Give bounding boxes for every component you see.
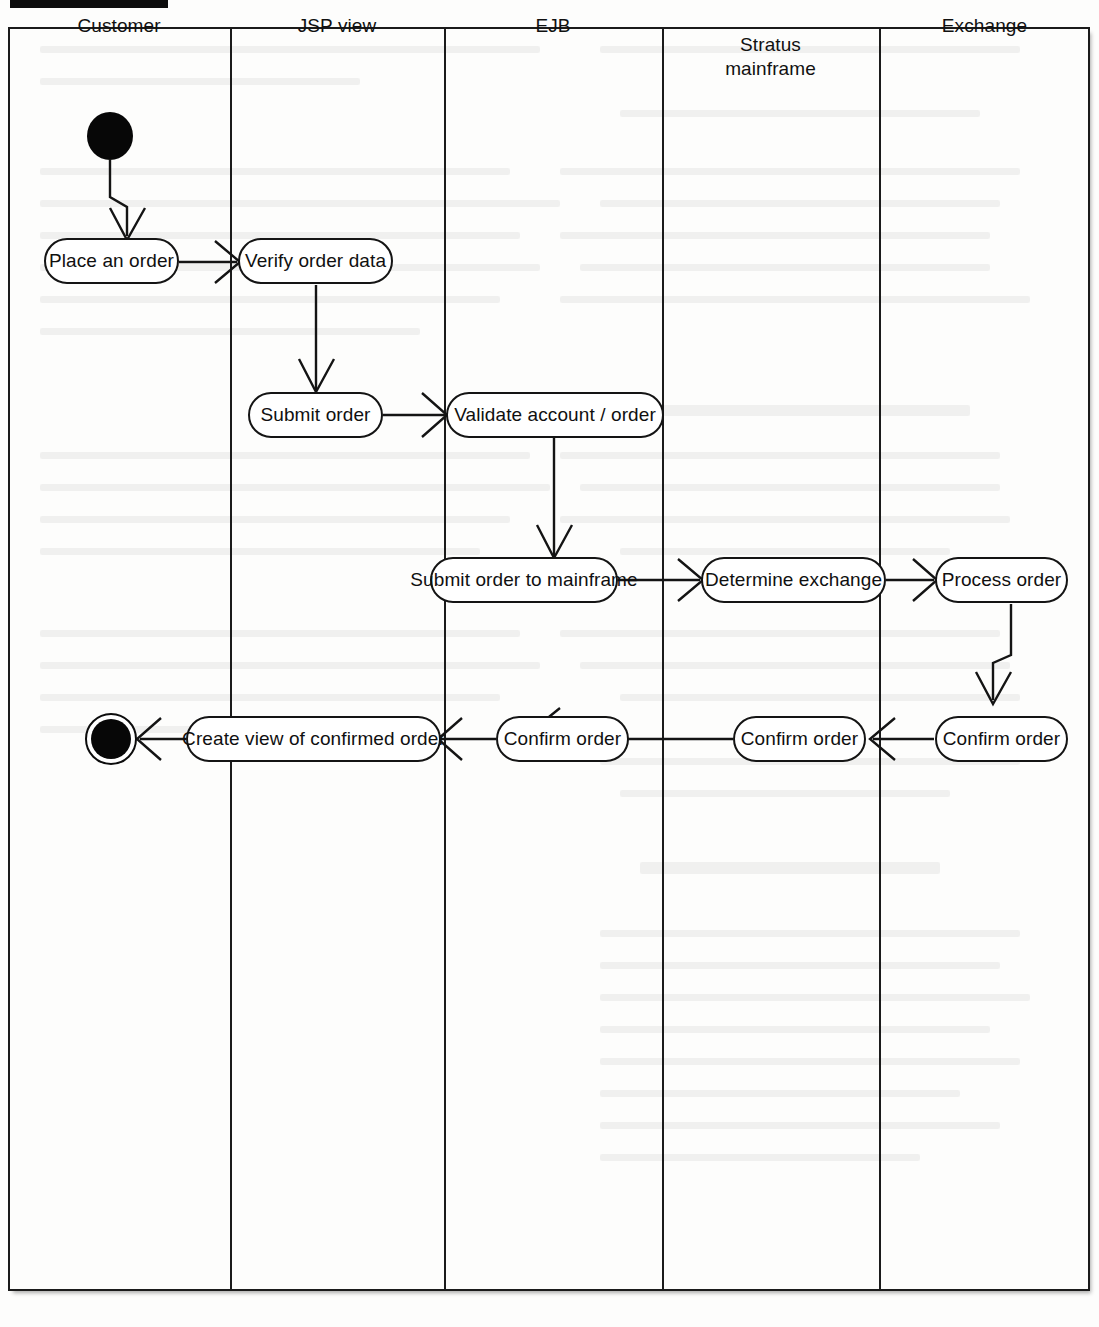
lane-divider-3 bbox=[662, 29, 664, 1289]
activity-label: Submit order to mainframe bbox=[410, 569, 637, 591]
activity-submit-order[interactable]: Submit order bbox=[248, 392, 383, 438]
lane-label-exchange: Exchange bbox=[942, 15, 1027, 36]
lane-label-stratus-mainframe-line1: Stratus bbox=[662, 33, 879, 57]
lane-header-jsp-view: JSP view bbox=[230, 14, 444, 38]
activity-label: Validate account / order bbox=[454, 404, 656, 426]
lane-header-stratus-mainframe: Stratus mainframe bbox=[662, 33, 879, 81]
activity-confirm-order-ejb[interactable]: Confirm order bbox=[496, 716, 629, 762]
activity-label: Confirm order bbox=[943, 728, 1060, 750]
lane-label-customer: Customer bbox=[77, 15, 160, 36]
lane-divider-1 bbox=[230, 29, 232, 1289]
lane-label-ejb: EJB bbox=[535, 15, 570, 36]
activity-create-view-of-confirmed-order[interactable]: Create view of confirmed order bbox=[186, 716, 441, 762]
initial-state-node bbox=[87, 112, 133, 160]
activity-label: Verify order data bbox=[245, 250, 386, 272]
page-root: Customer JSP view EJB Stratus mainframe … bbox=[0, 0, 1099, 1327]
lane-header-ejb: EJB bbox=[444, 14, 662, 38]
lane-divider-2 bbox=[444, 29, 446, 1289]
activity-label: Process order bbox=[942, 569, 1062, 591]
activity-label: Determine exchange bbox=[705, 569, 882, 591]
activity-place-an-order[interactable]: Place an order bbox=[44, 238, 179, 284]
activity-label: Confirm order bbox=[741, 728, 858, 750]
activity-label: Create view of confirmed order bbox=[182, 728, 445, 750]
activity-confirm-order-mainframe[interactable]: Confirm order bbox=[733, 716, 866, 762]
lane-label-stratus-mainframe-line2: mainframe bbox=[662, 57, 879, 81]
lane-header-exchange: Exchange bbox=[879, 14, 1090, 38]
lane-label-jsp-view: JSP view bbox=[298, 15, 377, 36]
activity-confirm-order-exchange[interactable]: Confirm order bbox=[935, 716, 1068, 762]
final-state-node bbox=[85, 713, 137, 765]
activity-submit-order-to-mainframe[interactable]: Submit order to mainframe bbox=[430, 557, 618, 603]
activity-validate-account-order[interactable]: Validate account / order bbox=[446, 392, 664, 438]
activity-process-order[interactable]: Process order bbox=[935, 557, 1068, 603]
activity-label: Place an order bbox=[49, 250, 174, 272]
lane-header-customer: Customer bbox=[8, 14, 230, 38]
final-state-inner bbox=[91, 719, 131, 759]
activity-determine-exchange[interactable]: Determine exchange bbox=[701, 557, 886, 603]
activity-verify-order-data[interactable]: Verify order data bbox=[238, 238, 393, 284]
activity-label: Submit order bbox=[261, 404, 371, 426]
page-corner-tab bbox=[10, 0, 168, 8]
activity-label: Confirm order bbox=[504, 728, 621, 750]
swimlane-frame bbox=[8, 27, 1090, 1291]
lane-divider-4 bbox=[879, 29, 881, 1289]
